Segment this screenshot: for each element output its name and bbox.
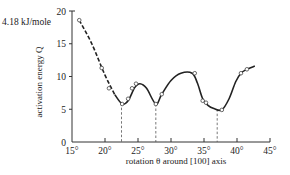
activation-energy-chart: 05101520 15°20°25°30°35°40°45° 4.18 kJ/m… [0,0,290,175]
chart-svg: 05101520 15°20°25°30°35°40°45° 4.18 kJ/m… [0,0,290,175]
data-point-marker [77,18,81,22]
data-point-marker [154,102,158,106]
data-point-marker [204,101,208,105]
data-point-marker [134,82,138,86]
energy-curve [79,20,255,110]
y-axis-label: activation energy Q [34,46,44,117]
data-point-marker [193,71,197,75]
data-point-marker [120,102,124,106]
minima-guide-lines [122,103,218,142]
x-tick-label: 25° [131,146,145,156]
unit-label: 4.18 kJ/mole [2,17,51,27]
data-point-marker [107,86,111,90]
x-tick-label: 40° [230,146,244,156]
y-axis-ticks: 05101520 [57,7,73,148]
y-tick-label: 20 [57,7,67,17]
data-point-markers [77,18,248,111]
x-tick-label: 20° [98,146,112,156]
x-axis-ticks: 15°20°25°30°35°40°45° [65,138,277,156]
y-tick-label: 10 [57,72,67,82]
data-point-marker [126,97,130,101]
curve-solid-segment [115,66,255,110]
y-tick-label: 5 [61,105,66,115]
x-tick-label: 35° [197,146,211,156]
data-point-marker [100,66,104,70]
y-tick-label: 15 [57,39,67,49]
data-point-marker [130,86,134,90]
x-tick-label: 45° [263,146,277,156]
data-point-marker [160,92,164,96]
data-point-marker [239,71,243,75]
curve-dashed-segment [79,20,115,95]
x-tick-label: 30° [164,146,178,156]
data-point-marker [245,67,249,71]
x-tick-label: 15° [65,146,79,156]
axes [72,11,270,142]
x-axis-label: rotation θ around [100] axis [126,156,227,166]
data-point-marker [220,108,224,112]
